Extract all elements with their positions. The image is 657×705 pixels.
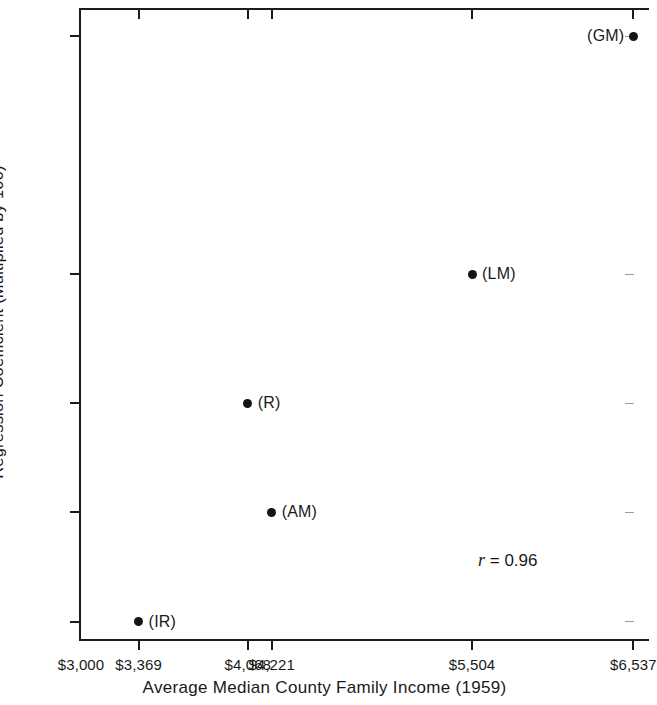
data-point-label: (AM) xyxy=(282,503,317,521)
y-axis-tick-right xyxy=(625,274,634,275)
x-axis-tick-top xyxy=(271,10,273,19)
data-point-label: (LM) xyxy=(482,265,516,283)
x-axis-tick-top xyxy=(247,10,249,19)
x-axis-tick-top xyxy=(471,10,473,19)
correlation-symbol: r xyxy=(478,550,485,570)
y-axis-tick xyxy=(70,511,81,513)
x-axis-tick-label: $5,504 xyxy=(449,656,495,673)
y-axis-tick xyxy=(70,402,81,404)
data-point-marker xyxy=(134,617,143,626)
x-axis-tick-label: $3,369 xyxy=(115,656,161,673)
data-point-marker xyxy=(243,399,252,408)
correlation-value: = 0.96 xyxy=(485,551,537,570)
y-axis-tick xyxy=(70,621,81,623)
y-axis-tick-right xyxy=(625,512,634,513)
y-axis-title: Regression Coefficient (Multiplied by 10… xyxy=(0,165,7,479)
x-axis-tick-label: $3,000 xyxy=(58,656,104,673)
y-axis-tick-right xyxy=(625,621,634,622)
x-axis-tick xyxy=(247,639,249,650)
x-axis-tick-top xyxy=(632,10,634,19)
y-axis-tick-right xyxy=(625,403,634,404)
data-point-label: (IR) xyxy=(149,613,176,631)
y-axis-tick xyxy=(70,273,81,275)
x-axis-tick xyxy=(271,639,273,650)
x-axis-tick xyxy=(632,639,634,650)
y-axis-tick xyxy=(70,35,81,37)
x-axis-tick xyxy=(471,639,473,650)
data-point-label: (R) xyxy=(258,394,281,412)
x-axis-title: Average Median County Family Income (195… xyxy=(0,678,649,698)
x-axis-tick xyxy=(138,639,140,650)
x-axis-tick-label: $6,537 xyxy=(610,656,656,673)
data-point-marker xyxy=(267,508,276,517)
plot-area: 01.046.4311.7818.1129.82$3,000$3,369$4,0… xyxy=(79,8,649,641)
data-point-marker xyxy=(629,32,638,41)
correlation-annotation: r = 0.96 xyxy=(478,550,537,571)
x-axis-tick-top xyxy=(138,10,140,19)
x-axis-tick-label: $4,221 xyxy=(248,656,294,673)
data-point-label: (GM) xyxy=(587,27,624,45)
data-point-marker xyxy=(468,270,477,279)
